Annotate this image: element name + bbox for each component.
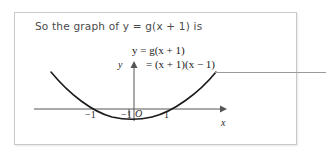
figure-panel: So the graph of y = g(x + 1) is y = g(x …	[14, 12, 297, 145]
tick-label-pos-one: 1	[164, 109, 169, 120]
x-axis-arrow	[220, 106, 227, 113]
tick-label-neg-one-left: −1	[85, 109, 96, 120]
header-text: So the graph of y = g(x + 1) is	[35, 20, 202, 32]
equation-line-1: y = g(x + 1)	[132, 43, 215, 57]
parabola-graph	[15, 13, 298, 146]
tick-label-neg-one-origin: −1	[121, 109, 132, 120]
equation-line-2: = (x + 1)(x − 1)	[132, 57, 215, 71]
parabola-curve	[51, 72, 216, 119]
callout-leader-line	[215, 72, 326, 73]
y-axis-label: y	[118, 59, 122, 70]
figure-root: So the graph of y = g(x + 1) is y = g(x …	[0, 0, 326, 158]
equation-block: y = g(x + 1) = (x + 1)(x − 1)	[132, 43, 215, 71]
header-text-content: So the graph of y = g(x + 1) is	[35, 20, 202, 32]
x-axis-label: x	[221, 117, 225, 128]
origin-label: O	[135, 108, 142, 119]
